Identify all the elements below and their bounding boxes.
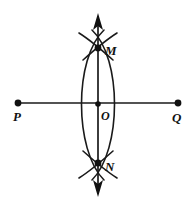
label-m: M xyxy=(104,43,117,58)
label-p: P xyxy=(13,109,22,124)
point-m-dot xyxy=(95,45,102,52)
geometry-canvas: P Q M N O xyxy=(0,0,196,208)
point-q-dot xyxy=(175,100,182,107)
label-q: Q xyxy=(172,110,182,125)
geometry-figure: P Q M N O xyxy=(0,0,196,208)
point-o-dot xyxy=(95,101,101,107)
label-n: N xyxy=(104,159,115,174)
label-o: O xyxy=(101,109,110,123)
point-p-dot xyxy=(15,100,22,107)
point-n-dot xyxy=(95,160,102,167)
